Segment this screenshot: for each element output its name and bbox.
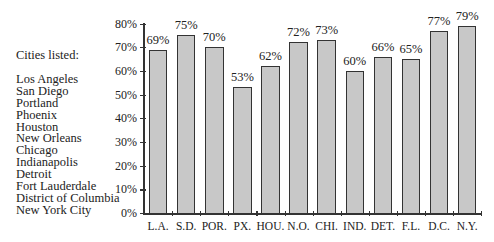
bar: [233, 87, 252, 214]
x-tick-mark: [341, 211, 342, 216]
x-tick-mark: [425, 211, 426, 216]
y-tick-label: 50%: [101, 89, 137, 101]
x-tick-mark: [200, 211, 201, 216]
x-tick-mark: [397, 211, 398, 216]
x-tick-mark: [228, 211, 229, 216]
x-tick-mark: [313, 211, 314, 216]
y-tick-label: 80%: [101, 18, 137, 30]
y-tick-label: 30%: [101, 136, 137, 148]
x-tick-label: N.Y.: [447, 220, 487, 232]
x-tick-mark: [256, 211, 257, 216]
bar: [430, 31, 449, 214]
bar-value-label: 79%: [447, 10, 487, 22]
bar-value-label: 69%: [138, 34, 178, 46]
y-axis: [143, 23, 145, 214]
bar-value-label: 75%: [166, 19, 206, 31]
bar-value-label: 70%: [194, 31, 234, 43]
bar-value-label: 62%: [250, 50, 290, 62]
bar: [317, 40, 336, 214]
bar-value-label: 65%: [391, 43, 431, 55]
x-tick-mark: [285, 211, 286, 216]
y-tick-label: 0%: [101, 207, 137, 219]
bar-value-label: 53%: [222, 71, 262, 83]
bar-chart: 0%10%20%30%40%50%60%70%80% 69%L.A.75%S.D…: [0, 0, 494, 242]
y-tick-label: 70%: [101, 41, 137, 53]
bar: [458, 26, 477, 214]
y-tick-label: 40%: [101, 112, 137, 124]
bar: [149, 50, 168, 214]
x-tick-mark: [172, 211, 173, 216]
bar: [205, 47, 224, 214]
bar-value-label: 73%: [307, 24, 347, 36]
y-tick-label: 10%: [101, 183, 137, 195]
y-tick-label: 20%: [101, 160, 137, 172]
bar: [346, 71, 365, 214]
x-tick-mark: [481, 211, 482, 216]
x-tick-mark: [453, 211, 454, 216]
bar: [177, 35, 196, 214]
bar-value-label: 60%: [335, 55, 375, 67]
bar: [374, 57, 393, 214]
x-tick-mark: [369, 211, 370, 216]
bar: [402, 59, 421, 214]
bar: [261, 66, 280, 214]
y-tick-label: 60%: [101, 65, 137, 77]
bar: [289, 42, 308, 214]
